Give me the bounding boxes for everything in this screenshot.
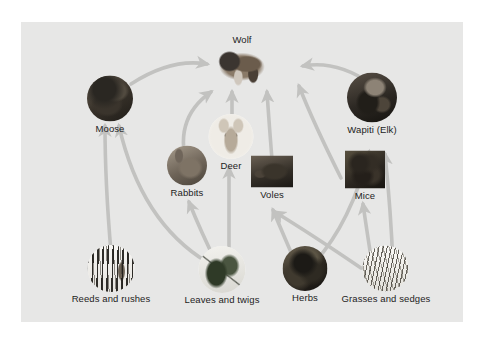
node-deer[interactable]: Deer <box>209 114 254 172</box>
node-label-elk: Wapiti (Elk) <box>347 124 397 136</box>
food-web-figure: WolfMooseWapiti (Elk)DeerRabbitsVolesMic… <box>0 0 485 344</box>
node-label-rabbits: Rabbits <box>167 187 207 199</box>
node-image-moose <box>87 76 133 122</box>
node-image-elk <box>347 73 397 123</box>
node-reeds[interactable]: Reeds and rushes <box>72 245 151 305</box>
node-label-reeds: Reeds and rushes <box>72 293 151 305</box>
voles-icon <box>251 156 293 188</box>
node-image-grasses <box>363 246 409 292</box>
elk-icon <box>347 73 397 123</box>
node-herbs[interactable]: Herbs <box>283 246 328 304</box>
node-label-mice: Mice <box>345 190 385 202</box>
node-elk[interactable]: Wapiti (Elk) <box>347 73 397 136</box>
moose-icon <box>87 76 133 122</box>
node-image-rabbits <box>167 146 207 186</box>
leaves-icon <box>198 246 245 293</box>
mice-icon <box>345 151 385 189</box>
node-image-deer <box>209 114 254 159</box>
herbs-icon <box>283 246 328 291</box>
arrow-mice-wolf <box>299 86 341 178</box>
node-image-wolf <box>211 47 273 91</box>
diagram-panel: WolfMooseWapiti (Elk)DeerRabbitsVolesMic… <box>21 22 463 322</box>
node-image-leaves <box>198 246 245 293</box>
node-label-grasses: Grasses and sedges <box>342 293 431 305</box>
node-grasses[interactable]: Grasses and sedges <box>342 246 431 305</box>
arrow-reeds-moose <box>105 126 111 252</box>
grasses-icon <box>363 246 409 292</box>
node-moose[interactable]: Moose <box>87 76 133 135</box>
deer-icon <box>209 114 254 159</box>
node-voles[interactable]: Voles <box>251 156 293 201</box>
node-label-moose: Moose <box>87 123 133 135</box>
node-label-voles: Voles <box>251 189 293 201</box>
node-rabbits[interactable]: Rabbits <box>167 146 207 199</box>
node-image-reeds <box>88 245 135 292</box>
node-label-deer: Deer <box>209 160 254 172</box>
node-image-herbs <box>283 246 328 291</box>
node-leaves[interactable]: Leaves and twigs <box>184 246 259 306</box>
node-wolf[interactable]: Wolf <box>211 34 273 91</box>
node-image-voles <box>251 156 293 188</box>
arrow-moose-wolf <box>131 63 207 84</box>
node-image-mice <box>345 151 385 189</box>
rabbits-icon <box>167 146 207 186</box>
node-label-leaves: Leaves and twigs <box>184 294 259 306</box>
reeds-icon <box>88 245 135 292</box>
wolf-icon <box>211 47 273 91</box>
node-label-wolf: Wolf <box>211 34 273 46</box>
node-label-herbs: Herbs <box>283 292 328 304</box>
node-mice[interactable]: Mice <box>345 151 385 202</box>
